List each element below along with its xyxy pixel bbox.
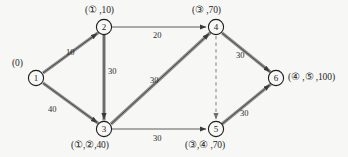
node-6-label: (④ ,⑤ ,100) — [288, 71, 335, 82]
node-2-id: 2 — [102, 22, 107, 32]
node-2[interactable]: 2 — [96, 19, 111, 34]
node-3-id: 3 — [102, 124, 107, 134]
node-3[interactable]: 3 — [96, 121, 111, 136]
node-4-id: 4 — [214, 22, 219, 32]
edge-5-6 — [222, 84, 271, 124]
edge-weight-3-5: 30 — [153, 133, 162, 143]
node-5[interactable]: 5 — [208, 121, 223, 136]
node-4-label: (③ ,70) — [192, 4, 221, 15]
node-6-id: 6 — [274, 73, 279, 83]
node-5-id: 5 — [214, 124, 219, 134]
node-5-label: (③,④ ,70) — [185, 139, 225, 150]
edge-weight-1-2: 10 — [66, 47, 75, 57]
edge-weight-1-3: 40 — [48, 104, 57, 114]
node-4[interactable]: 4 — [208, 19, 223, 34]
edge-weight-4-6: 30 — [236, 50, 245, 60]
network-diagram-canvas: 1 2 3 4 5 6 (0) (① ,10) (①,②,40) (③ ,70)… — [0, 0, 348, 157]
node-1[interactable]: 1 — [28, 70, 43, 85]
edge-4-6 — [222, 33, 271, 73]
node-1-id: 1 — [34, 73, 39, 83]
node-6[interactable]: 6 — [268, 70, 283, 85]
node-1-label: (0) — [12, 58, 23, 68]
edge-weight-3-4: 30 — [150, 75, 159, 85]
node-3-label: (①,②,40) — [71, 139, 109, 150]
edge-3-4 — [111, 33, 211, 125]
node-2-label: (① ,10) — [85, 4, 114, 15]
edge-weight-2-3: 30 — [108, 66, 117, 76]
edge-weight-2-4: 20 — [153, 30, 162, 40]
edge-weight-5-6: 30 — [240, 108, 249, 118]
